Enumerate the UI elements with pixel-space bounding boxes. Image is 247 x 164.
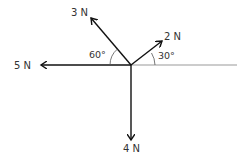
force-4n-label: 4 N: [123, 143, 140, 154]
force-5n-label: 5 N: [14, 60, 31, 71]
angle-30-label: 30°: [158, 50, 175, 61]
force-diagram: 3 N 2 N 5 N 4 N 60° 30°: [0, 0, 247, 164]
angle-60-label: 60°: [89, 49, 106, 60]
force-3n-label: 3 N: [71, 7, 88, 18]
force-2n-label: 2 N: [164, 31, 181, 42]
angle-arc-60: [110, 49, 118, 65]
angle-arc-30: [152, 53, 156, 65]
